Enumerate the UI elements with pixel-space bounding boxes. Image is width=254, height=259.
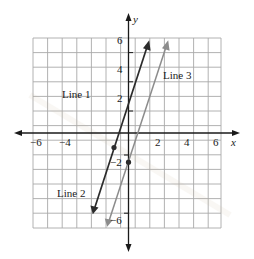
x-tick-label-4: 4 <box>184 137 190 148</box>
x-tick-label--4: −4 <box>59 137 71 148</box>
y-axis-arrow-top <box>126 13 132 21</box>
y-axis-label: y <box>133 14 138 25</box>
y-axis-arrow-bottom <box>126 244 132 252</box>
y-tick-label-6: 6 <box>117 35 123 46</box>
line-3-label: Line 3 <box>163 70 191 81</box>
line-2-label: Line 2 <box>57 188 85 199</box>
line-3-arrow-top <box>162 40 170 51</box>
line-1-2-point <box>111 145 116 150</box>
line-1-label: Line 1 <box>62 89 90 100</box>
graph-figure: −6 −4 2 4 6 6 4 2 −2 −6 x y Line 1 Line … <box>0 0 254 259</box>
line-3-point <box>126 160 131 165</box>
y-tick-label--2: −2 <box>110 157 122 168</box>
coordinate-plane-svg <box>0 0 254 259</box>
x-axis-arrow-left <box>14 130 22 136</box>
y-tick-label-2: 2 <box>117 93 123 104</box>
y-tick-label--6: −6 <box>110 215 122 226</box>
x-tick-label-6: 6 <box>213 137 219 148</box>
x-axis-label: x <box>231 137 236 148</box>
x-tick-label-2: 2 <box>155 137 161 148</box>
y-tick-label-4: 4 <box>117 64 123 75</box>
x-tick-label--6: −6 <box>30 137 42 148</box>
